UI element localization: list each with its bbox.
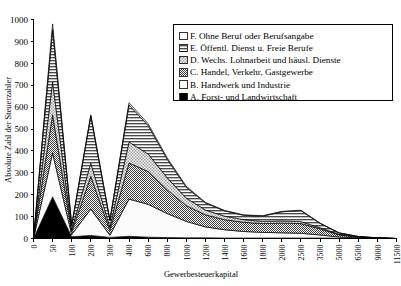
y-tick-label: 600 [15,102,29,112]
y-tick-label: 200 [15,190,29,200]
y-tick-label: 1000 [10,15,29,25]
y-tick-label: 400 [15,146,29,156]
x-tick-label: 100 [68,245,77,257]
x-tick-label: 3500 [316,245,325,261]
y-tick-label: 700 [15,80,29,90]
legend-swatch-F [180,32,188,40]
x-tick-label: 2500 [297,245,306,261]
y-tick-label: 500 [15,124,29,134]
y-tick-label: 900 [15,37,29,47]
x-axis-title: Gewerbesteuerkapital [164,269,239,279]
x-tick-label: 600 [144,245,153,257]
x-tick-label: 1200 [202,245,211,261]
x-tick-label: 5000 [335,245,344,261]
stacked-area-chart: 0501002003004006008001000120014001600180… [0,0,401,286]
x-tick-label: 200 [87,245,96,257]
y-tick-label: 100 [15,212,29,222]
legend-label-A: A. Forst- und Landwirtschaft [190,92,298,102]
x-tick-label: 2000 [278,245,287,261]
x-tick-label: 1000 [183,245,192,261]
x-tick-label: 9000 [374,245,383,261]
legend-swatch-D [180,56,188,64]
y-tick-label: 800 [15,59,29,69]
y-tick-labels: 01002003004005006007008009001000 [10,15,34,244]
x-tick-label: 400 [125,245,134,257]
x-tick-label: 1400 [221,245,230,261]
y-axis-title: Absolute Zahl der Steuerzahler [3,77,13,183]
legend-swatch-E [180,44,188,52]
x-tick-label: 800 [163,245,172,257]
legend: F. Ohne Beruf oder BerufsangabeE. Öffent… [174,25,393,102]
chart-container: 0501002003004006008001000120014001600180… [0,0,401,286]
x-tick-labels: 0501002003004006008001000120014001600180… [30,239,401,265]
x-tick-label: 0 [30,245,39,249]
legend-label-D: D. Wechs. Lohnarbeit und häusl. Dienste [190,55,341,65]
legend-swatch-C [180,69,188,77]
legend-label-B: B. Handwerk und Industrie [190,80,290,90]
y-tick-label: 300 [15,168,29,178]
x-tick-label: 300 [106,245,115,257]
x-tick-label: 11500 [393,245,401,265]
x-tick-label: 1800 [259,245,268,261]
y-tick-label: 0 [24,234,29,244]
legend-swatch-A [180,93,188,101]
x-tick-label: 50 [49,245,58,253]
legend-label-F: F. Ohne Beruf oder Berufsangabe [190,31,314,41]
x-tick-label: 6500 [354,245,363,261]
legend-swatch-B [180,81,188,89]
legend-label-E: E. Öffentl. Dienst u. Freie Berufe [190,43,313,53]
legend-label-C: C. Handel, Verkehr, Gastgewerbe [190,67,313,77]
x-tick-label: 1600 [240,245,249,261]
